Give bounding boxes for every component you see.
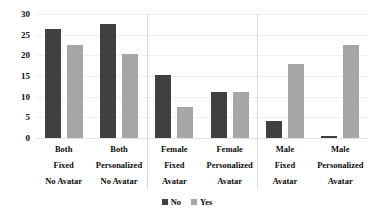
bar-no — [266, 121, 282, 138]
x-axis-category-line: Personalized — [91, 157, 146, 173]
x-axis-category-line: Personalized — [202, 157, 257, 173]
y-axis-tick-label: 10 — [21, 92, 30, 101]
x-axis-category: BothFixedNo Avatar — [36, 139, 91, 191]
y-axis-tick-label: 15 — [21, 72, 30, 81]
bar-yes — [343, 45, 359, 138]
x-axis-category-line: Fixed — [147, 157, 202, 173]
bar-no — [100, 24, 116, 138]
y-axis-tick-label: 25 — [21, 30, 30, 39]
bar-no — [211, 92, 227, 138]
x-axis-category-line: Male — [257, 141, 312, 157]
bar-chart: 051015202530 BothFixedNo AvatarBothPerso… — [0, 0, 374, 221]
bar-yes — [177, 107, 193, 138]
bar-yes — [67, 45, 83, 138]
bar-no — [155, 75, 171, 138]
plot-area — [36, 14, 368, 138]
x-axis-category-line: Female — [202, 141, 257, 157]
bar-group — [257, 14, 312, 138]
y-axis-tick-label: 0 — [26, 134, 31, 143]
bar-groups — [36, 14, 368, 138]
chart-legend: NoYes — [0, 198, 374, 207]
y-axis: 051015202530 — [0, 14, 34, 138]
bar-group — [147, 14, 202, 138]
x-axis-category: BothPersonalizedNo Avatar — [91, 139, 146, 191]
legend-label: No — [171, 198, 181, 207]
legend-item[interactable]: Yes — [191, 198, 212, 207]
x-axis-category-line: Avatar — [257, 173, 312, 189]
x-axis-category-line: No Avatar — [91, 173, 146, 189]
x-axis-category-line: Fixed — [36, 157, 91, 173]
bar-no — [321, 136, 337, 138]
x-axis-category-line: Avatar — [147, 173, 202, 189]
y-axis-tick-label: 30 — [21, 10, 30, 19]
x-axis-category-line: Both — [36, 141, 91, 157]
y-axis-tick-label: 5 — [26, 113, 31, 122]
bar-group — [313, 14, 368, 138]
bar-yes — [122, 54, 138, 138]
x-axis-category-line: Avatar — [202, 173, 257, 189]
bar-group — [91, 14, 146, 138]
legend-swatch-icon — [162, 199, 168, 205]
x-axis-category-line: No Avatar — [36, 173, 91, 189]
x-axis-category-line: Both — [91, 141, 146, 157]
x-axis-category-line: Fixed — [257, 157, 312, 173]
bar-yes — [288, 64, 304, 138]
bar-group — [36, 14, 91, 138]
x-axis-category: FemalePersonalizedAvatar — [202, 139, 257, 191]
legend-swatch-icon — [191, 199, 197, 205]
legend-item[interactable]: No — [162, 198, 181, 207]
x-axis-category: FemaleFixedAvatar — [147, 139, 202, 191]
x-axis-category-line: Female — [147, 141, 202, 157]
x-axis-category-line: Avatar — [313, 173, 368, 189]
bar-group — [202, 14, 257, 138]
y-axis-tick-label: 20 — [21, 51, 30, 60]
x-axis-category: MaleFixedAvatar — [257, 139, 312, 191]
bar-yes — [233, 92, 249, 138]
x-axis-category-line: Male — [313, 141, 368, 157]
bar-no — [45, 29, 61, 138]
legend-label: Yes — [200, 198, 212, 207]
x-axis-category: MalePersonalizedAvatar — [313, 139, 368, 191]
x-axis-category-line: Personalized — [313, 157, 368, 173]
x-axis-category-labels: BothFixedNo AvatarBothPersonalizedNo Ava… — [36, 139, 368, 191]
